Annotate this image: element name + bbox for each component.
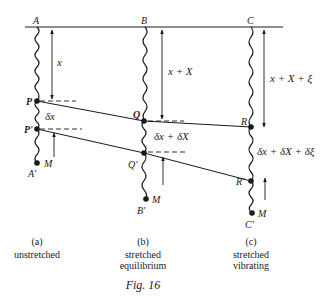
figure-title: Fig. 16 [125, 278, 161, 292]
label-q: Q [133, 109, 140, 120]
label-x-plus-X: x + X [167, 65, 194, 77]
mass-a [34, 160, 40, 166]
caption-c-letter: (c) [245, 236, 256, 248]
label-m-a: M [43, 158, 53, 169]
caption-b-line1: stretched [125, 249, 161, 260]
spring-a-upper [35, 27, 39, 101]
caption-a-text: unstretched [14, 249, 60, 260]
figure-16-diagram: A x P δx P' M A' B x + X Q δx + δX Q' M … [0, 0, 326, 297]
label-m-b: M [151, 194, 161, 205]
label-a: A [32, 15, 40, 26]
label-delta-x-plus-delta-X: δx + δX [154, 130, 190, 142]
label-p-prime: P' [24, 124, 33, 135]
caption-b-letter: (b) [137, 236, 149, 248]
label-m-c: M [257, 208, 267, 219]
label-b: B [141, 15, 147, 26]
point-r [248, 124, 254, 130]
spring-c-mid [249, 127, 253, 181]
label-b-prime: B' [137, 205, 146, 216]
spring-a-lower [35, 129, 39, 163]
column-c-vibrating: C x + X + ξ R δx + δX + δξ R' M C' [235, 15, 315, 230]
spring-a-mid [35, 101, 39, 129]
spring-b-mid [142, 121, 146, 153]
line-q-r [144, 121, 251, 127]
caption-b-line2: equilibrium [120, 260, 167, 271]
label-a-prime: A' [27, 168, 37, 179]
point-q-prime [141, 150, 147, 156]
point-r-prime [248, 178, 254, 184]
label-r: R [240, 116, 247, 127]
spring-b-upper [143, 27, 147, 121]
column-a-unstretched: A x P δx P' M A' [24, 15, 82, 179]
spring-b-lower [142, 153, 147, 199]
label-q-prime: Q' [128, 159, 138, 170]
column-b-equilibrium: B x + X Q δx + δX Q' M B' [128, 15, 194, 216]
caption-c-line2: vibrating [233, 260, 269, 271]
diagram-canvas: A x P δx P' M A' B x + X Q δx + δX Q' M … [0, 0, 326, 297]
caption-c-line1: stretched [233, 249, 269, 260]
spring-c-upper [249, 27, 253, 127]
label-delta-x: δx [45, 110, 55, 122]
spring-c-lower [249, 181, 253, 213]
label-x: x [56, 56, 62, 68]
label-delta-sum: δx + δX + δξ [257, 145, 315, 158]
mass-c [249, 210, 255, 216]
caption-a-letter: (a) [31, 236, 42, 248]
label-c-prime: C' [245, 219, 255, 230]
label-c: C [247, 15, 254, 26]
line-q-prime-r-prime [144, 153, 251, 181]
label-p: P [26, 96, 33, 107]
label-x-plus-X-plus-xi: x + X + ξ [269, 72, 312, 85]
point-q [141, 118, 147, 124]
line-p-prime-q-prime [37, 129, 144, 153]
label-r-prime: R' [235, 176, 245, 187]
mass-b [143, 196, 149, 202]
